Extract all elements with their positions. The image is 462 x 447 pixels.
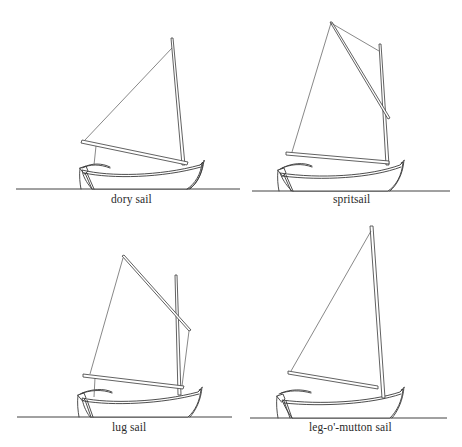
boom	[286, 152, 389, 164]
sail-edge	[292, 23, 331, 152]
caption-spritsail: spritsail	[333, 193, 370, 205]
boom	[81, 140, 188, 165]
boom	[288, 371, 378, 389]
sail-types-figure	[0, 0, 462, 447]
mast	[370, 226, 385, 398]
sail-edge	[291, 231, 371, 371]
hull	[280, 162, 403, 191]
boom	[83, 374, 184, 389]
lug-sail-drawing	[17, 255, 232, 417]
mast	[171, 38, 185, 165]
caption-lug-sail: lug sail	[112, 421, 146, 433]
sail-edge	[90, 258, 123, 374]
leg-o-mutton-sail-drawing	[250, 226, 447, 418]
caption-dory-sail: dory sail	[111, 193, 152, 205]
yard	[122, 255, 191, 331]
mast	[175, 275, 181, 395]
caption-leg-o-mutton-sail: leg-o'-mutton sail	[309, 421, 392, 433]
sail-edge	[85, 48, 172, 140]
spritsail-drawing	[252, 22, 450, 191]
dory-sail-drawing	[16, 38, 240, 189]
